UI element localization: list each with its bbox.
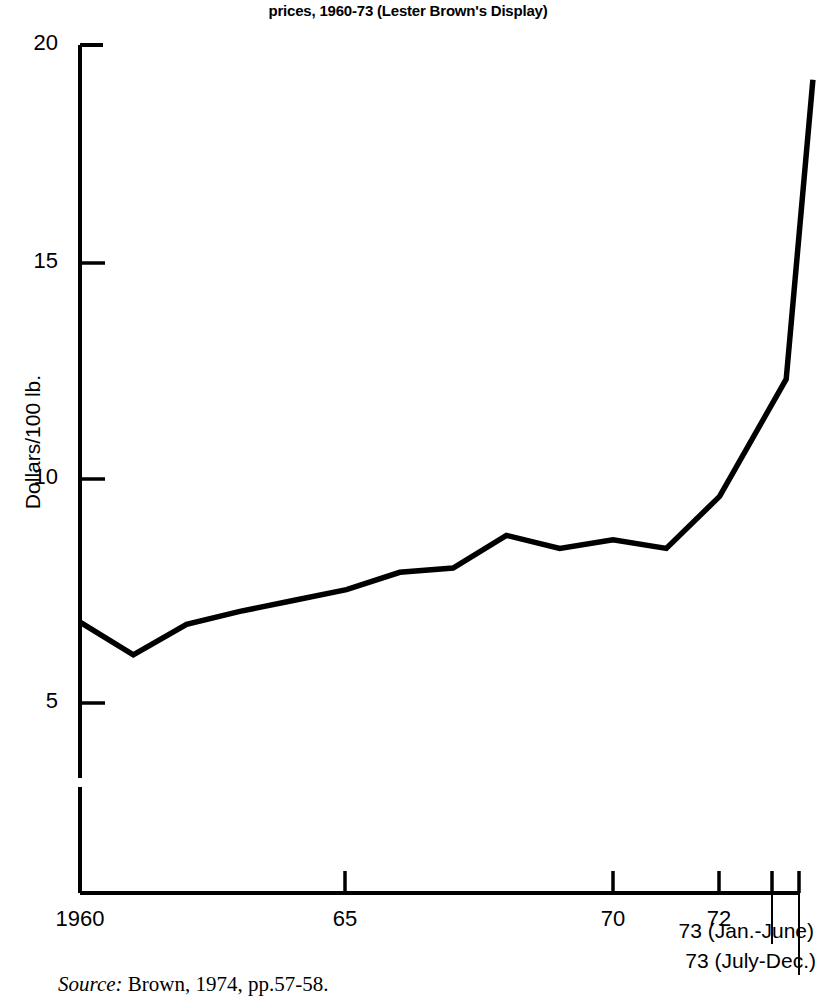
y-axis-title: Dollars/100 lb.: [21, 332, 45, 552]
source-note: Source: Brown, 1974, pp.57-58.: [58, 972, 328, 997]
y-tick-label-20: 20: [0, 30, 58, 56]
plot-area: [0, 0, 816, 1003]
x-callout-label-jan-june: 73 (Jan.-June): [498, 919, 814, 943]
soybean-price-line: [80, 80, 813, 655]
y-tick-label-5: 5: [0, 688, 58, 714]
x-tick-label-65: 65: [285, 906, 405, 932]
source-citation: Brown, 1974, pp.57-58.: [123, 972, 329, 996]
x-callout-label-july-dec: 73 (July-Dec.): [498, 949, 816, 973]
x-tick-label-1960: 1960: [20, 906, 140, 932]
source-label: Source:: [58, 972, 123, 996]
y-tick-label-15: 15: [0, 248, 58, 274]
figure-container: Figure. World soybean prices, 1960-73 (L…: [0, 0, 816, 1003]
